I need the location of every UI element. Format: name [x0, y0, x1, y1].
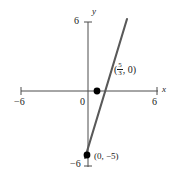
fraction-numerator: 5 — [117, 62, 123, 69]
plot-canvas — [0, 0, 173, 179]
y-intercept-label: (0, −5) — [94, 152, 119, 161]
x-tick-label-right: 6 — [152, 97, 157, 107]
x-intercept-rest: , 0) — [123, 64, 136, 75]
x-axis-label: x — [162, 85, 166, 94]
y-axis-label: y — [92, 7, 96, 16]
x-intercept-label: (53, 0) — [114, 62, 136, 78]
y-intercept-point — [84, 152, 91, 159]
y-tick-label-bottom: −6 — [70, 159, 81, 169]
x-tick-label-left: −6 — [14, 97, 25, 107]
x-intercept-point — [94, 88, 101, 95]
coordinate-plane-graph: y x 6 −6 −6 6 0 (0, −5) (53, 0) — [0, 0, 173, 179]
y-tick-label-top: 6 — [74, 16, 79, 26]
x-intercept-fraction: 53 — [117, 62, 123, 78]
origin-label: 0 — [80, 97, 85, 107]
fraction-denominator: 3 — [117, 69, 123, 77]
plotted-line — [85, 19, 127, 158]
